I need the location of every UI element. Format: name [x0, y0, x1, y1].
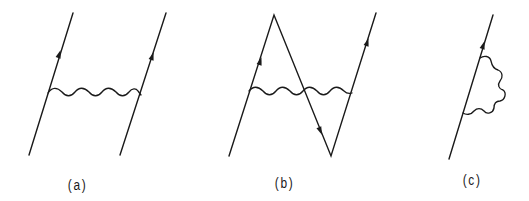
panel-c-diagram: [449, 15, 505, 159]
panel-b-label: (b): [275, 175, 295, 191]
panel-b-photon-line: [249, 87, 352, 95]
panel-b-diagram: [229, 13, 376, 156]
panel-c-label: (c): [463, 172, 482, 188]
panel-a-photon-line: [48, 88, 141, 96]
feynman-diagrams-figure: [0, 0, 529, 201]
panel-a-fermion-left: [29, 13, 73, 155]
panel-c-fermion-line: [449, 15, 493, 159]
panel-a-diagram: [29, 13, 166, 155]
panel-c-photon-loop: [463, 56, 505, 114]
panel-b-fermion-zigzag: [229, 13, 376, 156]
panel-a-fermion-right: [120, 13, 166, 155]
panel-a-label: (a): [68, 177, 88, 193]
panel-a-right-arrow-icon: [149, 51, 156, 60]
panel-c-arrow-icon: [480, 40, 487, 49]
panel-b-middle-arrow-icon: [316, 126, 324, 135]
